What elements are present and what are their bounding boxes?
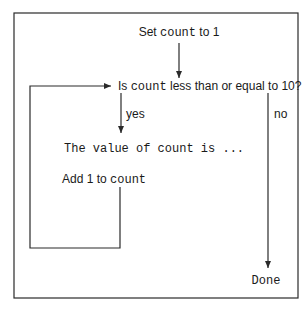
edge-loop-back xyxy=(30,86,120,248)
label-no: no xyxy=(274,107,288,121)
node-done: Done xyxy=(252,274,281,288)
flowchart-canvas: Set count to 1 Is count less than or equ… xyxy=(0,0,308,310)
node-print: The value of count is ... xyxy=(64,142,244,156)
label-yes: yes xyxy=(126,107,145,121)
flowchart: Set count to 1 Is count less than or equ… xyxy=(0,0,308,310)
node-init: Set count to 1 xyxy=(139,25,220,40)
node-condition: Is count less than or equal to 10? xyxy=(118,79,302,94)
node-increment: Add 1 to count xyxy=(62,172,146,187)
